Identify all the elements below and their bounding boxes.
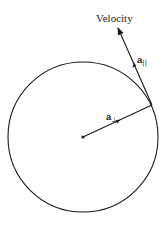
a-parallel-label: a|| xyxy=(137,54,147,67)
a-perpendicular-label: a⊥ xyxy=(106,111,117,124)
circular-motion-diagram: Velocity a|| a⊥ xyxy=(0,0,167,231)
velocity-label: Velocity xyxy=(96,12,133,24)
a-parallel-subscript: || xyxy=(142,59,147,67)
a-perpendicular-subscript: ⊥ xyxy=(111,116,117,124)
